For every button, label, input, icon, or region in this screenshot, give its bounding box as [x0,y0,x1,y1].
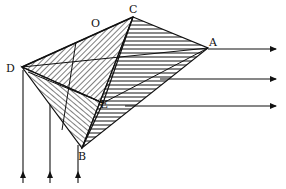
label-b: B [78,150,86,163]
pyramid-projection-diagram: C A D O E B [0,0,286,189]
label-a: A [208,36,218,49]
label-o: O [91,17,100,30]
label-c: C [129,3,137,16]
label-e: E [100,98,108,111]
label-d: D [6,62,15,75]
